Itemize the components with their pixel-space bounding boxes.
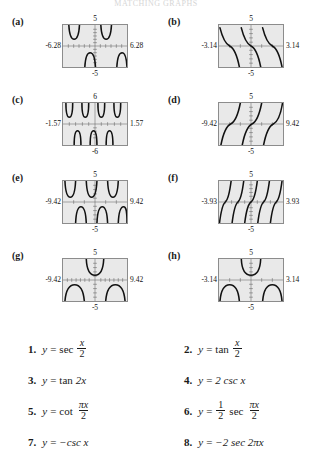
equation-7-lhs: y xyxy=(42,436,47,448)
panel-g-plot xyxy=(62,258,128,302)
panel-b-xmin-label: -3.14 xyxy=(201,41,217,50)
equation-number-1: 1. xyxy=(28,343,36,355)
equation-6-numerator: πx xyxy=(247,400,260,410)
equation-6-coefficient-numerator: 1 xyxy=(216,400,225,410)
equation-5-fraction: πx 2 xyxy=(77,400,90,421)
equation-1-function: sec xyxy=(59,343,73,355)
equation-2-equals: = xyxy=(206,343,212,355)
panel-row-4: (g) 5 -5 -9.42 9.42 xyxy=(0,242,312,320)
panel-row-2: (c) 6 -6 -1.57 1.57 xyxy=(0,86,312,164)
panel-g-ymax-label: 5 xyxy=(62,248,128,257)
equation-7-equals: = xyxy=(50,436,56,448)
equation-row-3: 5. y = cot πx 2 6. y = 1 2 sec xyxy=(0,395,312,426)
graph-panel-b: (b) 5 -5 -3.14 3.14 xyxy=(156,8,312,86)
equation-3-function: tan xyxy=(59,374,72,386)
panel-g-xmin-label: -9.42 xyxy=(45,275,61,284)
equation-1-fraction: x 2 xyxy=(77,338,86,359)
graph-panel-e: (e) 5 -5 -9.42 9.42 xyxy=(0,164,156,242)
panel-a-ymax-label: 5 xyxy=(62,14,128,23)
panel-d-ymax-label: 5 xyxy=(218,92,284,101)
panel-label-d: (d) xyxy=(168,94,180,105)
panel-f-xmin-label: -3.93 xyxy=(201,197,217,206)
equation-3-equals: = xyxy=(50,374,56,386)
panel-f-plot xyxy=(218,180,284,224)
equation-body-6: y = 1 2 sec πx 2 xyxy=(198,400,262,421)
equation-number-6: 6. xyxy=(184,405,192,417)
panel-e-xmax-label: 9.42 xyxy=(130,197,143,206)
panel-d-xmax-label: 9.42 xyxy=(286,119,299,128)
graph-panel-c: (c) 6 -6 -1.57 1.57 xyxy=(0,86,156,164)
panel-e-xmin-label: -9.42 xyxy=(45,197,61,206)
panel-e-ymax-label: 5 xyxy=(62,170,128,179)
panel-d-ymin-label: -5 xyxy=(218,147,284,156)
equation-6-lhs: y xyxy=(198,405,203,417)
panel-a-xmin-label: -6.28 xyxy=(45,41,61,50)
panel-label-g: (g) xyxy=(12,250,24,261)
equation-list: 1. y = sec x 2 2. y = tan x 2 xyxy=(0,333,312,457)
equation-item-4: 4. y = 2 csc x xyxy=(156,374,312,386)
graph-panel-a: (a) 5 -5 -6.28 6.28 xyxy=(0,8,156,86)
equation-item-1: 1. y = sec x 2 xyxy=(0,338,156,359)
equation-number-2: 2. xyxy=(184,343,192,355)
panel-a-plot xyxy=(62,24,128,68)
equation-3-lhs: y xyxy=(42,374,47,386)
graph-panel-grid: (a) 5 -5 -6.28 6.28 xyxy=(0,8,312,320)
equation-2-denominator: 2 xyxy=(233,348,242,359)
equation-2-lhs: y xyxy=(198,343,203,355)
equation-body-4: y = 2 csc x xyxy=(198,374,245,386)
equation-1-lhs: y xyxy=(42,343,47,355)
panel-c-xmin-label: -1.57 xyxy=(45,119,61,128)
panel-d-plot xyxy=(218,102,284,146)
equation-6-equals: = xyxy=(206,405,212,417)
equation-7-argument: −csc x xyxy=(59,436,88,448)
cut-off-header-text: MATCHING GRAPHS xyxy=(0,0,312,7)
panel-c-ymax-label: 6 xyxy=(62,92,128,101)
equation-6-fraction: πx 2 xyxy=(247,400,260,421)
graph-panel-g: (g) 5 -5 -9.42 9.42 xyxy=(0,242,156,320)
panel-label-f: (f) xyxy=(168,172,178,183)
panel-d-xmin-label: -9.42 xyxy=(201,119,217,128)
equation-5-numerator: πx xyxy=(77,400,90,410)
panel-a-ymin-label: -5 xyxy=(62,69,128,78)
equation-5-function: cot xyxy=(59,405,72,417)
equation-number-7: 7. xyxy=(28,436,36,448)
equation-1-equals: = xyxy=(50,343,56,355)
panel-label-e: (e) xyxy=(12,172,23,183)
panel-e-plot xyxy=(62,180,128,224)
panel-f-xmax-label: 3.93 xyxy=(286,197,299,206)
equation-body-8: y = −2 sec 2πx xyxy=(198,436,263,448)
equation-2-numerator: x xyxy=(233,338,241,348)
equation-number-4: 4. xyxy=(184,374,192,386)
equation-row-1: 1. y = sec x 2 2. y = tan x 2 xyxy=(0,333,312,364)
equation-5-equals: = xyxy=(50,405,56,417)
panel-row-1: (a) 5 -5 -6.28 6.28 xyxy=(0,8,312,86)
equation-6-function: sec xyxy=(229,405,243,417)
equation-1-numerator: x xyxy=(78,338,86,348)
equation-6-denominator: 2 xyxy=(250,410,259,421)
equation-4-equals: = xyxy=(206,374,212,386)
panel-label-c: (c) xyxy=(12,94,23,105)
panel-h-plot xyxy=(218,258,284,302)
equation-body-2: y = tan x 2 xyxy=(198,338,243,359)
equation-body-3: y = tan 2x xyxy=(42,374,86,386)
graph-panel-f: (f) 5 -5 -3.93 3.93 xyxy=(156,164,312,242)
equation-8-argument: −2 sec 2πx xyxy=(215,436,263,448)
panel-h-ymin-label: -5 xyxy=(218,303,284,312)
panel-g-ymin-label: -5 xyxy=(62,303,128,312)
equation-4-lhs: y xyxy=(198,374,203,386)
equation-item-5: 5. y = cot πx 2 xyxy=(0,400,156,421)
panel-label-b: (b) xyxy=(168,16,180,27)
panel-b-xmax-label: 3.14 xyxy=(286,41,299,50)
panel-h-ymax-label: 5 xyxy=(218,248,284,257)
equation-1-denominator: 2 xyxy=(77,348,86,359)
equation-number-8: 8. xyxy=(184,436,192,448)
equation-2-fraction: x 2 xyxy=(233,338,242,359)
panel-a-xmax-label: 6.28 xyxy=(130,41,143,50)
equation-body-7: y = −csc x xyxy=(42,436,88,448)
equation-item-6: 6. y = 1 2 sec πx 2 xyxy=(156,400,312,421)
equation-item-7: 7. y = −csc x xyxy=(0,436,156,448)
equation-body-5: y = cot πx 2 xyxy=(42,400,91,421)
equation-item-3: 3. y = tan 2x xyxy=(0,374,156,386)
panel-c-xmax-label: 1.57 xyxy=(130,119,143,128)
equation-number-3: 3. xyxy=(28,374,36,386)
